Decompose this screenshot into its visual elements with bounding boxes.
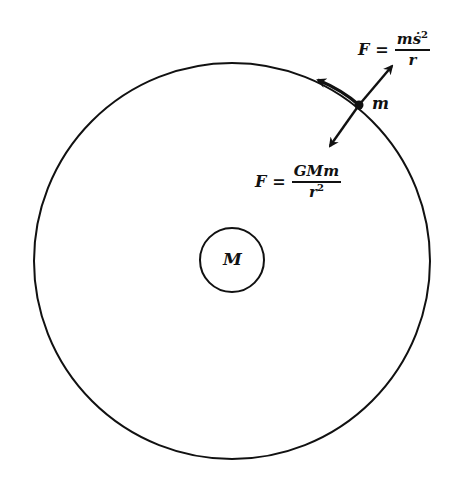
equation-lhs: F	[358, 40, 369, 59]
numerator-exponent: 2	[421, 29, 428, 40]
numerator: GMm	[292, 164, 341, 181]
fraction: mṡ2 r	[395, 32, 430, 68]
numerator-base: mṡ	[397, 30, 421, 48]
fraction: GMm r2	[292, 164, 341, 200]
denominator-exponent: 2	[317, 182, 324, 193]
denominator: r	[408, 51, 416, 68]
numerator: mṡ2	[395, 32, 430, 49]
equation-lhs: F	[255, 172, 266, 191]
orbiting-mass-point	[355, 101, 364, 110]
orbit-diagram	[0, 0, 466, 487]
orbiting-mass-label: m	[372, 96, 389, 112]
equals-sign: =	[272, 172, 285, 191]
gravitational-force-arrow	[330, 105, 359, 146]
velocity-arrow	[318, 80, 359, 105]
denominator-base: r	[309, 183, 317, 201]
gravitational-force-equation: F = GMm r2	[255, 164, 341, 200]
central-mass-label: M	[223, 251, 242, 268]
equals-sign: =	[375, 40, 388, 59]
centrifugal-force-equation: F = mṡ2 r	[358, 32, 430, 68]
denominator: r2	[309, 183, 324, 200]
